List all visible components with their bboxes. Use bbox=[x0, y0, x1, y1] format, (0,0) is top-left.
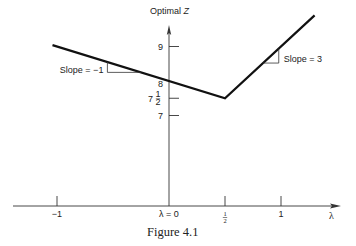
y-tick-label-whole: 7 bbox=[148, 94, 153, 104]
optimal-z-line bbox=[53, 15, 315, 98]
annotations: Slope = −1Slope = 3 bbox=[60, 49, 322, 76]
x-tick-label: −1 bbox=[52, 209, 62, 219]
x-tick-label-numerator: 1 bbox=[223, 210, 226, 217]
figure-caption: Figure 4.1 bbox=[147, 225, 198, 239]
y-tick-label-denominator: 2 bbox=[155, 97, 160, 107]
y-axis-label-var: Z bbox=[183, 6, 190, 16]
x-tick-label: 12 bbox=[223, 210, 227, 224]
x-tick-label: 1 bbox=[278, 209, 283, 219]
y-axis-label: Optimal Z bbox=[150, 6, 190, 16]
y-tick-label: 7 bbox=[158, 111, 163, 121]
slope-label-right: Slope = 3 bbox=[284, 54, 322, 64]
x-tick-label-denominator: 2 bbox=[223, 217, 226, 224]
series bbox=[53, 15, 315, 98]
x-tick-label: λ = 0 bbox=[159, 209, 179, 219]
y-tick-label: 8 bbox=[158, 79, 163, 89]
axes bbox=[13, 25, 341, 208]
y-tick-label: 9 bbox=[158, 42, 163, 52]
y-tick-label: 712 bbox=[148, 89, 161, 107]
figure-canvas: −1λ = 0121987127 Slope = −1Slope = 3 Opt… bbox=[0, 0, 356, 246]
slope-label-left: Slope = −1 bbox=[60, 65, 104, 75]
x-axis-label: λ bbox=[329, 210, 334, 221]
y-axis-label-prefix: Optimal bbox=[150, 6, 184, 16]
